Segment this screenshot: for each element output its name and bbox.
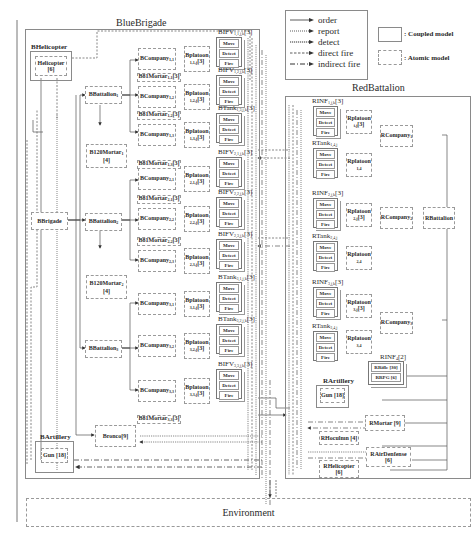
b-vehicle-stack-2: Move Detect Fire xyxy=(216,113,242,143)
detect-cell: Detect xyxy=(219,381,239,390)
legend-indirect-fire: indirect fire xyxy=(290,58,363,69)
b81-mortar-1-2: B81Mortar1,2[3] xyxy=(137,111,181,120)
fire-cell: Fire xyxy=(219,304,239,313)
solid-arrow-icon xyxy=(290,17,314,23)
r-platoon-3-4: Rplatoon3,4 xyxy=(346,330,372,354)
r-vehicle-stack-5: Move Detect Fire xyxy=(313,331,338,361)
b-vehicle-stack-8: Move Detect Fire xyxy=(216,369,242,399)
move-cell: Move xyxy=(316,108,335,117)
move-cell: Move xyxy=(316,200,335,209)
b-battalion-2-model: BBattalion2 xyxy=(85,213,122,231)
r-hoculmn-model: RHoculmn [4] xyxy=(319,431,359,445)
r-inf-group-stack: RRifle [30] RRPG [6] xyxy=(368,361,404,385)
b81-mortar-1-3: B81Mortar1,3[3] xyxy=(137,160,181,169)
legend-detect: detect xyxy=(290,36,363,47)
fire-cell: Fire xyxy=(316,309,335,318)
r-platoon-2-j: Rplatoon2,j[3] xyxy=(346,203,372,227)
legend-order: order xyxy=(290,14,363,25)
fire-cell: Fire xyxy=(316,170,335,179)
b-company-2-3: BCompany2,3 xyxy=(138,250,176,272)
r-battalion-model: RBattalion xyxy=(423,207,455,229)
move-cell: Move xyxy=(219,77,239,86)
fire-cell: Fire xyxy=(219,346,239,355)
legend-coupled-swatch xyxy=(378,27,402,42)
blue-brigade-title: BlueBrigade xyxy=(116,17,167,28)
r-platoon-3-j: Rplatoon3,j[3] xyxy=(346,294,372,318)
detect-cell: Detect xyxy=(219,49,239,58)
detect-cell: Detect xyxy=(219,294,239,303)
b-platoon-3-2: Bplatoon3,2,j[3] xyxy=(184,333,210,359)
b-vehicle-stack-4: Move Detect Fire xyxy=(216,197,242,227)
legend-coupled-label: : Coupled model xyxy=(404,30,453,38)
b-company-3-2: BCompany3,2 xyxy=(138,335,176,357)
environment-box: Environment xyxy=(26,498,471,527)
fire-cell: Fire xyxy=(219,179,239,188)
r-company-3: RCompany3 xyxy=(380,312,413,334)
fire-cell: Fire xyxy=(219,135,239,144)
move-cell: Move xyxy=(219,284,239,293)
detect-cell: Detect xyxy=(219,251,239,260)
move-cell: Move xyxy=(219,159,239,168)
b-vehicle-stack-6: Move Detect Fire xyxy=(216,282,242,312)
fire-cell: Fire xyxy=(316,220,335,229)
b-platoon-2-3: Bplatoon2,3,j[3] xyxy=(184,248,210,274)
environment-label: Environment xyxy=(222,507,274,518)
move-cell: Move xyxy=(316,243,335,252)
detect-cell: Detect xyxy=(219,336,239,345)
b-vehicle-stack-5: Move Detect Fire xyxy=(216,239,242,269)
b-company-3-3: BCompany3,3 xyxy=(138,380,176,402)
move-cell: Move xyxy=(316,150,335,159)
detect-cell: Detect xyxy=(219,209,239,218)
detect-cell: Detect xyxy=(316,118,335,127)
fire-cell: Fire xyxy=(219,219,239,228)
detect-cell: Detect xyxy=(316,253,335,262)
legend-atomic-label: : Atomic model xyxy=(404,54,450,62)
b120-mortar-1-model: B120Mortar1 [4] xyxy=(86,144,127,168)
b-company-2-2: BCompany2,2 xyxy=(138,208,176,230)
r-rpg-cell: RRPG [6] xyxy=(371,373,401,382)
b81-mortar-2-2: B81Mortar2,2[3] xyxy=(137,237,181,246)
dense-dotted-arrow-icon xyxy=(290,39,314,45)
r-vehicle-stack-1: Move Detect Fire xyxy=(313,148,338,178)
move-cell: Move xyxy=(316,289,335,298)
b-vehicle-stack-0: Move Detect Fire xyxy=(216,37,242,67)
move-cell: Move xyxy=(219,115,239,124)
b-battalion-1-model: BBattalion1 xyxy=(85,86,122,104)
r-artillery-title: RArtillery xyxy=(323,377,354,385)
fire-cell: Fire xyxy=(316,353,335,362)
r-rifle-cell: RRifle [30] xyxy=(371,363,401,372)
r-gun-model: Gun [18] xyxy=(320,388,345,403)
b-platoon-2-2: Bplatoon2,2,j[3] xyxy=(184,206,210,232)
b-vehicle-stack-1: Move Detect Fire xyxy=(216,75,242,105)
b-helicopter-title: BHelicopter xyxy=(31,43,67,51)
detect-cell: Detect xyxy=(316,160,335,169)
b-artillery-title: BArtillery xyxy=(40,433,71,441)
r-air-defense-model: RAirDenfense[6] xyxy=(366,447,411,467)
detect-cell: Detect xyxy=(316,343,335,352)
b-platoon-1-2: Bplatoon1,2,j[3] xyxy=(184,84,210,110)
r-platoon-1-j: Rplatooni,j[3] xyxy=(346,110,372,134)
r-vehicle-stack-0: Move Detect Fire xyxy=(313,106,338,136)
move-cell: Move xyxy=(219,39,239,48)
detect-cell: Detect xyxy=(219,125,239,134)
dotted-arrow-icon xyxy=(290,28,314,34)
r-vehicle-stack-3: Move Detect Fire xyxy=(313,241,338,271)
detect-cell: Detect xyxy=(316,210,335,219)
red-battalion-title: RedBattalion xyxy=(352,82,405,93)
detect-cell: Detect xyxy=(219,87,239,96)
dash-dot-arrow-icon xyxy=(290,61,314,67)
dashed-arrow-icon xyxy=(290,50,314,56)
legend-direct-fire: direct fire xyxy=(290,47,363,58)
b-vehicle-stack-3: Move Detect Fire xyxy=(216,157,242,187)
b-platoon-3-3: Bplatoon3,3,j[3] xyxy=(184,378,210,404)
b81-mortar-2-1: B81Mortar2,1[3] xyxy=(137,195,181,204)
r-company-2: RCompany2 xyxy=(380,207,413,229)
move-cell: Move xyxy=(316,333,335,342)
r-vehicle-stack-2: Move Detect Fire xyxy=(313,198,338,228)
detect-cell: Detect xyxy=(316,299,335,308)
fire-cell: Fire xyxy=(316,128,335,137)
r-platoon-1-4: Rplatoon1,4 xyxy=(346,153,372,177)
move-cell: Move xyxy=(219,371,239,380)
r-vehicle-stack-4: Move Detect Fire xyxy=(313,287,338,317)
b-company-2-1: BCompany2,1 xyxy=(138,168,176,190)
